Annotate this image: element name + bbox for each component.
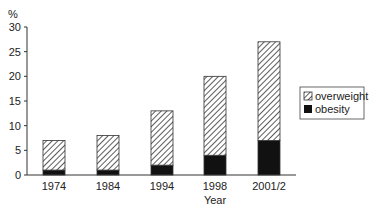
y-tick-label: 25	[9, 46, 21, 58]
chart: 051015202530 19741984199419982001/2 % Ye…	[0, 0, 377, 213]
y-axis-label: %	[8, 8, 18, 20]
bar-obesity	[97, 170, 119, 175]
bar-obesity	[258, 140, 280, 175]
bar-overweight	[258, 42, 280, 141]
y-tick-label: 10	[9, 120, 21, 132]
x-axis: 19741984199419982001/2	[27, 175, 296, 192]
legend-label-overweight: overweight	[315, 90, 368, 102]
legend-label-obesity: obesity	[315, 103, 350, 115]
bars	[43, 42, 280, 175]
bar-overweight	[43, 140, 65, 170]
y-axis: 051015202530	[9, 21, 27, 181]
x-tick-label: 1974	[42, 180, 66, 192]
y-tick-label: 0	[15, 169, 21, 181]
bar-overweight	[151, 111, 173, 165]
y-tick-label: 20	[9, 70, 21, 82]
bar-obesity	[151, 165, 173, 175]
bar-overweight	[97, 136, 119, 171]
bar-obesity	[204, 155, 226, 175]
legend-swatch-obesity	[304, 105, 312, 113]
bar-obesity	[43, 170, 65, 175]
y-tick-label: 5	[15, 144, 21, 156]
y-tick-label: 30	[9, 21, 21, 33]
x-tick-label: 1984	[96, 180, 120, 192]
legend: overweight obesity	[300, 87, 368, 119]
legend-swatch-overweight	[304, 92, 312, 100]
x-tick-label: 2001/2	[252, 180, 286, 192]
bar-overweight	[204, 76, 226, 155]
y-tick-label: 15	[9, 95, 21, 107]
x-tick-label: 1998	[203, 180, 227, 192]
x-axis-label: Year	[204, 194, 227, 206]
x-tick-label: 1994	[150, 180, 174, 192]
